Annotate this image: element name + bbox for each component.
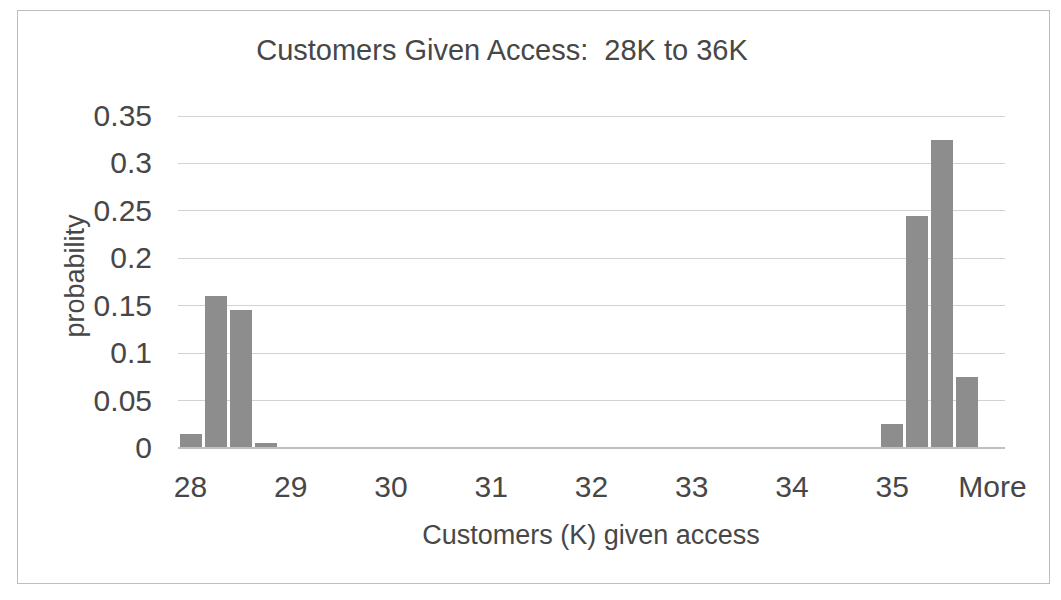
gridline: [178, 258, 1005, 259]
x-axis-line: [178, 447, 1005, 449]
y-tick-label: 0.35: [60, 101, 152, 131]
chart-title: Customers Given Access: 28K to 36K: [256, 33, 748, 68]
gridline: [178, 305, 1005, 306]
bar-35.75: [956, 377, 978, 448]
x-axis-title: Customers (K) given access: [422, 520, 760, 551]
gridline: [178, 353, 1005, 354]
x-tick-label: 30: [336, 472, 446, 502]
y-tick-label: 0.2: [60, 243, 152, 273]
gridline: [178, 116, 1005, 117]
x-tick-label: 28: [136, 472, 246, 502]
bar-28: [180, 434, 202, 448]
x-tick-label: 32: [537, 472, 647, 502]
bar-28.25: [205, 296, 227, 448]
x-tick-label: 29: [236, 472, 346, 502]
y-tick-label: 0: [60, 433, 152, 463]
gridline: [178, 163, 1005, 164]
gridline: [178, 400, 1005, 401]
y-tick-label: 0.25: [60, 196, 152, 226]
histogram-chart: Customers Given Access: 28K to 36K proba…: [0, 0, 1061, 600]
x-tick-label: 35: [837, 472, 947, 502]
x-tick-label: 34: [737, 472, 847, 502]
x-tick-label: 33: [637, 472, 747, 502]
x-tick-label: More: [937, 472, 1047, 502]
bar-35.25: [906, 216, 928, 448]
bar-35.5: [931, 140, 953, 448]
y-tick-label: 0.15: [60, 291, 152, 321]
bar-28.5: [230, 310, 252, 448]
y-tick-label: 0.3: [60, 148, 152, 178]
gridline: [178, 210, 1005, 211]
bar-35: [881, 424, 903, 448]
y-tick-label: 0.05: [60, 386, 152, 416]
y-tick-label: 0.1: [60, 338, 152, 368]
x-tick-label: 31: [436, 472, 546, 502]
